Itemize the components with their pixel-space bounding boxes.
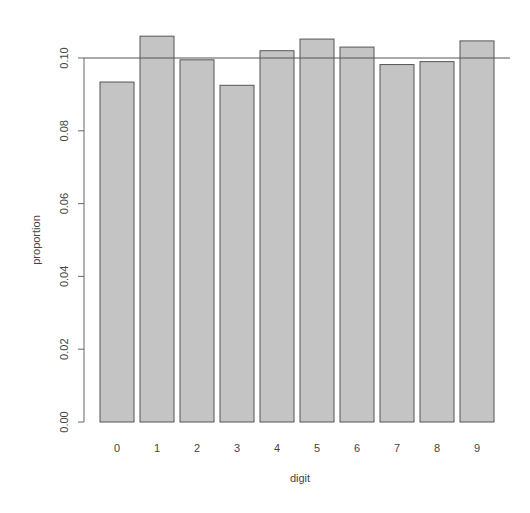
y-axis-title: proportion [30,215,42,265]
bar-chart: 0.000.020.040.060.080.10 0123456789 digi… [0,0,530,513]
bar-digit-6 [340,47,374,422]
x-tick-label: 7 [394,442,400,454]
bars [100,36,494,422]
bar-digit-7 [380,65,414,422]
bar-digit-8 [420,62,454,422]
bar-digit-2 [180,60,214,422]
bar-digit-0 [100,82,134,422]
x-tick-label: 5 [314,442,320,454]
y-tick-label: 0.04 [58,266,70,287]
y-tick-label: 0.00 [58,411,70,432]
x-tick-label: 0 [114,442,120,454]
bar-digit-4 [260,51,294,422]
bar-digit-3 [220,85,254,422]
y-tick-label: 0.08 [58,120,70,141]
x-tick-label: 1 [154,442,160,454]
x-tick-label: 2 [194,442,200,454]
x-axis-labels: 0123456789 [114,442,480,454]
x-axis-title: digit [290,472,310,484]
x-tick-label: 6 [354,442,360,454]
x-tick-label: 8 [434,442,440,454]
x-tick-label: 3 [234,442,240,454]
bar-digit-9 [460,41,494,422]
y-tick-label: 0.10 [58,47,70,68]
y-tick-label: 0.06 [58,193,70,214]
x-tick-label: 4 [274,442,280,454]
bar-digit-1 [140,36,174,422]
bar-digit-5 [300,39,334,422]
y-axis: 0.000.020.040.060.080.10 [58,47,84,432]
y-tick-label: 0.02 [58,338,70,359]
x-tick-label: 9 [474,442,480,454]
